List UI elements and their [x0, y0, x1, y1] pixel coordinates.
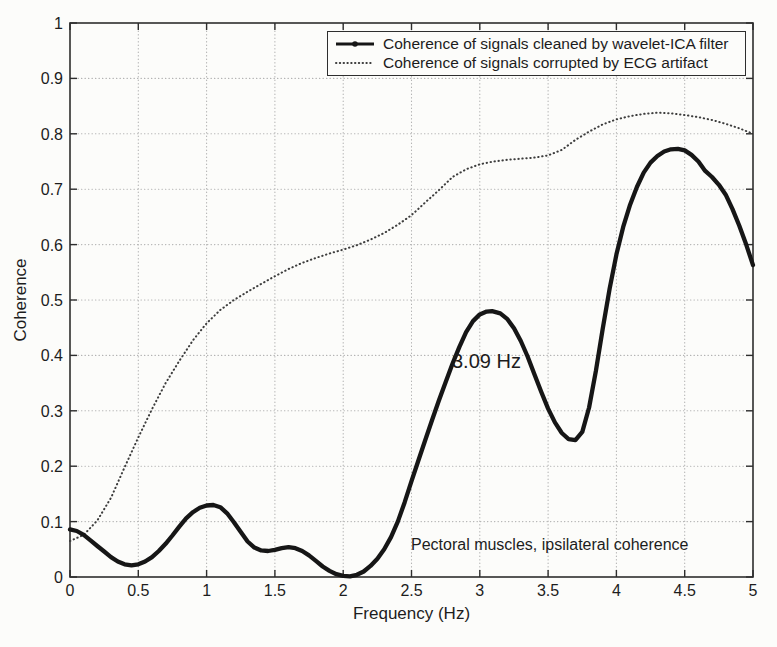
- x-tick-label: 5: [731, 582, 775, 599]
- x-tick-label: 1.5: [253, 582, 297, 599]
- x-tick-label: 3: [458, 582, 502, 599]
- legend-item-corrupted: Coherence of signals corrupted by ECG ar…: [335, 54, 740, 74]
- muscle-coherence-annotation: Pectoral muscles, ipsilateral coherence: [411, 536, 688, 554]
- y-tick-label: 0.7: [19, 181, 63, 198]
- solid-line-with-marker-icon: [335, 38, 375, 50]
- legend-item-cleaned: Coherence of signals cleaned by wavelet-…: [335, 34, 740, 54]
- y-tick-label: 0.8: [19, 126, 63, 143]
- y-tick-label: 0.2: [19, 458, 63, 475]
- legend-label-corrupted: Coherence of signals corrupted by ECG ar…: [383, 54, 708, 72]
- y-tick-label: 0.3: [19, 403, 63, 420]
- x-tick-label: 4.5: [663, 582, 707, 599]
- y-tick-label: 0.1: [19, 514, 63, 531]
- x-tick-label: 0: [48, 582, 92, 599]
- legend-box: Coherence of signals cleaned by wavelet-…: [327, 31, 746, 76]
- x-tick-label: 2: [321, 582, 365, 599]
- coherence-figure: 00.10.20.30.40.50.60.70.80.9100.511.522.…: [0, 0, 777, 647]
- x-tick-label: 0.5: [116, 582, 160, 599]
- peak-frequency-annotation: 3.09 Hz: [452, 350, 521, 373]
- dotted-line-icon: [335, 57, 375, 69]
- y-tick-label: 1: [19, 15, 63, 32]
- x-tick-label: 1: [185, 582, 229, 599]
- x-tick-label: 3.5: [526, 582, 570, 599]
- legend-label-cleaned: Coherence of signals cleaned by wavelet-…: [383, 35, 729, 53]
- x-tick-label: 2.5: [390, 582, 434, 599]
- y-tick-label: 0.9: [19, 70, 63, 87]
- x-tick-label: 4: [594, 582, 638, 599]
- y-tick-label: 0.4: [19, 347, 63, 364]
- y-tick-label: 0.6: [19, 237, 63, 254]
- x-axis-label: Frequency (Hz): [70, 604, 753, 624]
- y-axis-label: Coherence: [11, 258, 31, 341]
